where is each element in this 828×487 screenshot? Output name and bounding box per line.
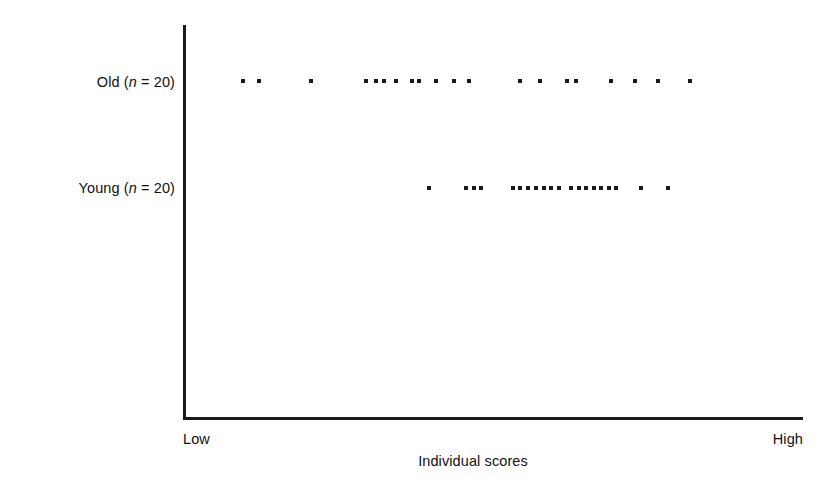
data-point	[382, 79, 386, 83]
data-point	[374, 79, 378, 83]
data-point	[394, 79, 398, 83]
data-point	[666, 186, 670, 190]
data-point	[688, 79, 692, 83]
data-point	[538, 79, 542, 83]
data-point	[452, 79, 456, 83]
data-point	[241, 79, 245, 83]
data-point	[569, 186, 573, 190]
data-point	[257, 79, 261, 83]
x-axis-title: Individual scores	[418, 453, 528, 469]
data-point	[464, 186, 468, 190]
x-axis-tick-high: High	[773, 431, 803, 447]
plot-area	[0, 0, 828, 420]
data-point	[417, 79, 421, 83]
data-point	[565, 79, 569, 83]
data-point	[518, 79, 522, 83]
data-point	[434, 79, 438, 83]
data-point	[656, 79, 660, 83]
data-point	[574, 79, 578, 83]
data-point	[526, 186, 530, 190]
data-point	[609, 79, 613, 83]
data-point	[518, 186, 522, 190]
data-point	[364, 79, 368, 83]
data-point	[309, 79, 313, 83]
data-point	[542, 186, 546, 190]
data-point	[584, 186, 588, 190]
data-point	[592, 186, 596, 190]
data-point	[633, 79, 637, 83]
data-point	[410, 79, 414, 83]
data-point	[511, 186, 515, 190]
data-point	[639, 186, 643, 190]
x-axis-tick-low: Low	[183, 431, 210, 447]
data-point	[472, 186, 476, 190]
dot-plot-figure: Old (n = 20) Young (n = 20) Low High Ind…	[0, 0, 828, 487]
data-point	[549, 186, 553, 190]
data-point	[599, 186, 603, 190]
data-point	[427, 186, 431, 190]
data-point	[479, 186, 483, 190]
data-point	[557, 186, 561, 190]
data-point	[577, 186, 581, 190]
data-point	[614, 186, 618, 190]
data-point	[534, 186, 538, 190]
data-point	[607, 186, 611, 190]
data-point	[467, 79, 471, 83]
